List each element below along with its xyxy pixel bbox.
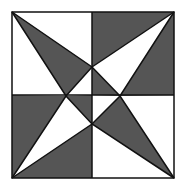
quilt-diagram (0, 0, 186, 189)
dark-wedge-bottom-right (92, 96, 174, 178)
dark-wedge-top-left (12, 12, 92, 96)
